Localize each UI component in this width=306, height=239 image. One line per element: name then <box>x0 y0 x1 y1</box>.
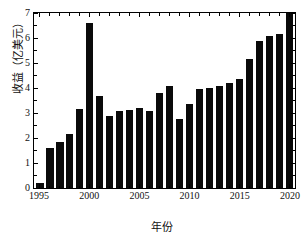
bar-slot <box>95 13 105 188</box>
x-axis-title: 年份 <box>32 218 292 234</box>
x-tick-label: 2005 <box>117 190 161 201</box>
bar <box>166 86 173 188</box>
y-tick-mark-right <box>291 88 295 89</box>
bar <box>126 110 133 188</box>
y-tick-mark <box>34 188 38 189</box>
x-tick-minor-mark <box>269 186 270 189</box>
y-tick-mark <box>34 138 38 139</box>
bar <box>96 96 103 189</box>
bar-series <box>34 13 295 188</box>
y-tick-minor-mark <box>34 75 37 76</box>
bar-slot <box>75 13 85 188</box>
x-tick-minor-mark-top <box>179 13 180 16</box>
x-tick-minor-mark <box>249 186 250 189</box>
bar <box>196 89 203 188</box>
bar <box>256 41 263 188</box>
x-tick-minor-mark <box>259 186 260 189</box>
x-tick-minor-mark <box>159 186 160 189</box>
y-tick-mark <box>34 163 38 164</box>
x-tick-mark <box>39 184 40 188</box>
x-tick-mark <box>89 184 90 188</box>
plot-area: 01234567 199520002005201020152020 <box>33 12 296 189</box>
bar <box>236 79 243 188</box>
x-tick-minor-mark-top <box>229 13 230 16</box>
bar-slot <box>85 13 95 188</box>
bar <box>176 119 183 188</box>
x-tick-minor-mark-top <box>259 13 260 16</box>
x-tick-minor-mark-top <box>159 13 160 16</box>
x-tick-minor-mark-top <box>249 13 250 16</box>
x-tick-minor-mark <box>229 186 230 189</box>
x-tick-minor-mark <box>219 186 220 189</box>
x-tick-minor-mark <box>79 186 80 189</box>
bar <box>206 88 213 188</box>
bar-slot <box>234 13 244 188</box>
y-tick-minor-mark <box>34 50 37 51</box>
y-tick-mark <box>34 13 38 14</box>
y-tick-label: 6 <box>25 31 30 44</box>
bar <box>246 59 253 189</box>
bar-slot <box>45 13 55 188</box>
x-tick-mark-top <box>289 13 290 17</box>
x-tick-minor-mark-top <box>169 13 170 16</box>
x-tick-minor-mark-top <box>129 13 130 16</box>
bar <box>86 23 93 188</box>
bar <box>186 104 193 189</box>
x-tick-mark <box>189 184 190 188</box>
bar <box>226 83 233 188</box>
bar <box>136 108 143 189</box>
y-tick-minor-mark <box>34 100 37 101</box>
y-tick-mark-right <box>291 63 295 64</box>
bar-slot <box>204 13 214 188</box>
bar-slot <box>175 13 185 188</box>
y-tick-label: 7 <box>25 6 30 19</box>
bar-slot <box>254 13 264 188</box>
y-tick-minor-mark <box>34 125 37 126</box>
bar-slot <box>65 13 75 188</box>
x-tick-mark-top <box>139 13 140 17</box>
bar-slot <box>195 13 205 188</box>
y-tick-minor-mark-right <box>293 125 296 126</box>
bar-slot <box>274 13 284 188</box>
y-tick-mark-right <box>291 38 295 39</box>
y-tick-minor-mark <box>34 150 37 151</box>
x-tick-minor-mark-top <box>99 13 100 16</box>
y-tick-label: 5 <box>25 56 30 69</box>
y-tick-mark-right <box>291 138 295 139</box>
bar-slot <box>135 13 145 188</box>
x-tick-label: 2000 <box>67 190 111 201</box>
x-tick-minor-mark-top <box>79 13 80 16</box>
x-tick-minor-mark <box>99 186 100 189</box>
x-tick-mark-top <box>189 13 190 17</box>
bar <box>66 134 73 188</box>
bar <box>276 34 283 188</box>
x-tick-mark-top <box>39 13 40 17</box>
x-tick-mark <box>239 184 240 188</box>
y-tick-label: 1 <box>25 156 30 169</box>
x-tick-minor-mark <box>119 186 120 189</box>
x-tick-minor-mark-top <box>269 13 270 16</box>
bar <box>146 111 153 189</box>
x-tick-minor-mark <box>109 186 110 189</box>
bar-slot <box>155 13 165 188</box>
x-tick-mark-top <box>89 13 90 17</box>
bar <box>266 36 273 188</box>
bar <box>76 109 83 188</box>
x-tick-minor-mark <box>179 186 180 189</box>
x-tick-minor-mark <box>69 186 70 189</box>
y-tick-minor-mark <box>34 25 37 26</box>
x-tick-mark-top <box>239 13 240 17</box>
y-tick-mark-right <box>291 163 295 164</box>
x-tick-minor-mark-top <box>59 13 60 16</box>
y-tick-minor-mark-right <box>293 25 296 26</box>
bar-slot <box>55 13 65 188</box>
x-tick-minor-mark-top <box>279 13 280 16</box>
x-tick-minor-mark-top <box>109 13 110 16</box>
x-tick-minor-mark-top <box>119 13 120 16</box>
bar <box>116 111 123 188</box>
y-axis-title: 收益（亿美元） <box>10 0 26 120</box>
y-tick-mark <box>34 38 38 39</box>
bar-slot <box>244 13 254 188</box>
x-tick-minor-mark <box>59 186 60 189</box>
bar-slot <box>105 13 115 188</box>
